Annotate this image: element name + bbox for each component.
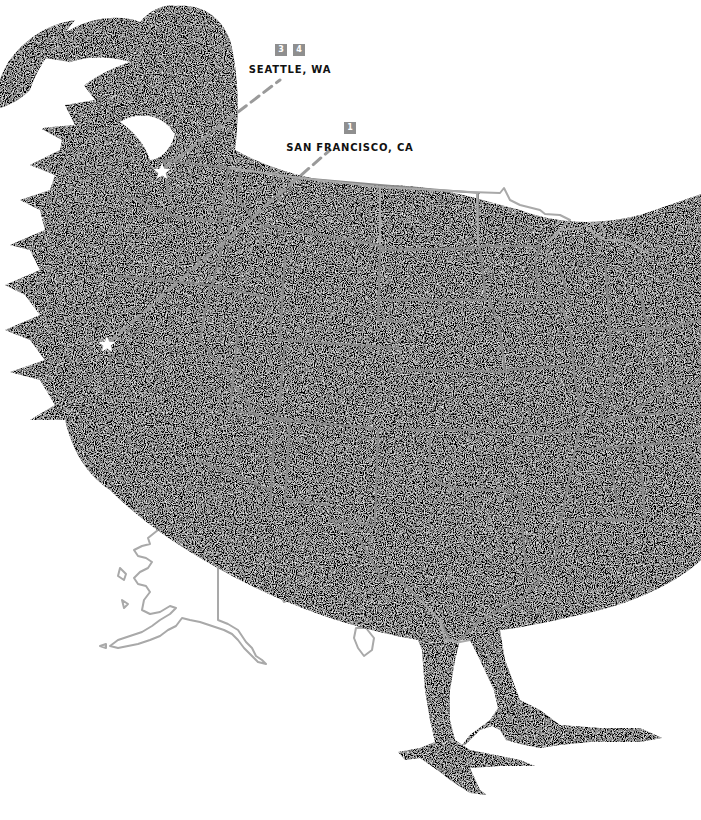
location-label-seattle: 3 4 SEATTLE, WA [240,44,340,75]
number-badge: 4 [293,44,305,56]
city-label: SEATTLE, WA [240,64,340,75]
badge-group: 1 [275,122,425,134]
number-badge: 3 [275,44,287,56]
badge-group: 3 4 [240,44,340,56]
number-badge: 1 [344,122,356,134]
location-label-san-francisco: 1 SAN FRANCISCO, CA [275,122,425,153]
city-label: SAN FRANCISCO, CA [275,142,425,153]
